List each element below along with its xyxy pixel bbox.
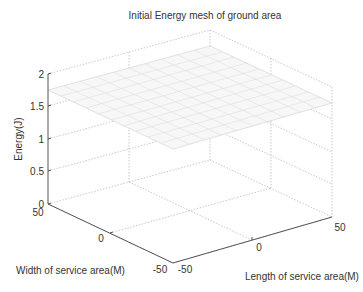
svg-text:1.5: 1.5 <box>30 101 44 112</box>
svg-text:0.5: 0.5 <box>30 166 44 177</box>
energy-mesh-chart: Initial Energy mesh of ground area <box>0 0 363 292</box>
svg-text:0: 0 <box>256 242 262 253</box>
x-axis-label: Length of service area(M) <box>245 271 359 282</box>
svg-text:2: 2 <box>38 69 44 80</box>
z-axis-label: Energy(J) <box>13 117 24 160</box>
svg-text:0: 0 <box>98 233 104 244</box>
svg-text:-50: -50 <box>178 264 193 275</box>
y-axis <box>48 204 173 263</box>
energy-mesh-surface <box>48 46 332 149</box>
svg-text:50: 50 <box>334 222 346 233</box>
y-axis-label: Width of service area(M) <box>16 265 125 276</box>
svg-text:1: 1 <box>38 134 44 145</box>
svg-text:-50: -50 <box>153 264 168 275</box>
svg-text:50: 50 <box>32 207 44 218</box>
z-tick-labels: 0 0.5 1 1.5 2 <box>30 69 44 210</box>
chart-title: Initial Energy mesh of ground area <box>129 10 282 21</box>
x-tick-labels: -50 0 50 <box>178 222 346 275</box>
